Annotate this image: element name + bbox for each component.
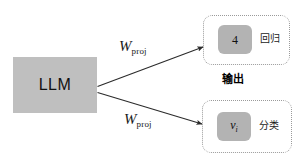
edge-label-symbol: W bbox=[124, 111, 137, 127]
llm-block: LLM bbox=[13, 57, 97, 113]
diagram-canvas: LLM Wproj Wproj 4 回归 输出 vi 分类 bbox=[0, 0, 296, 163]
arrow-to-regression bbox=[98, 47, 204, 87]
output-group-classification: vi 分类 bbox=[202, 100, 292, 153]
edge-label-regression-wproj: Wproj bbox=[119, 38, 147, 56]
edge-label-subscript: proj bbox=[132, 46, 147, 56]
output-caption: 输出 bbox=[222, 74, 244, 85]
edge-label-subscript: proj bbox=[137, 119, 152, 129]
edge-label-symbol: W bbox=[119, 38, 132, 54]
scan-artifact bbox=[0, 0, 296, 4]
regression-value: 4 bbox=[232, 34, 238, 46]
classification-task-label: 分类 bbox=[259, 121, 279, 131]
classification-value: vi bbox=[230, 119, 238, 134]
output-group-regression: 4 回归 bbox=[203, 15, 290, 65]
classification-value-chip: vi bbox=[217, 112, 251, 141]
classification-value-subscript: i bbox=[236, 125, 238, 134]
regression-task-label: 回归 bbox=[260, 34, 280, 44]
llm-block-label: LLM bbox=[39, 77, 72, 93]
regression-value-chip: 4 bbox=[218, 25, 252, 54]
edge-label-classification-wproj: Wproj bbox=[124, 111, 152, 129]
